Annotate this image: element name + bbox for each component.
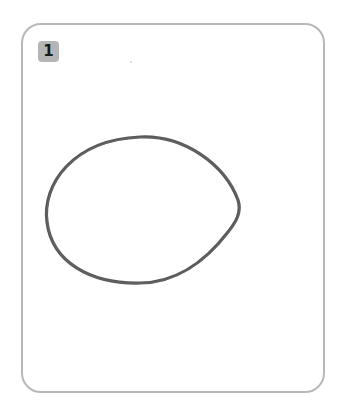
oval-shape-texture — [47, 137, 240, 283]
drawing-canvas — [0, 0, 339, 414]
stray-speck — [130, 61, 132, 63]
